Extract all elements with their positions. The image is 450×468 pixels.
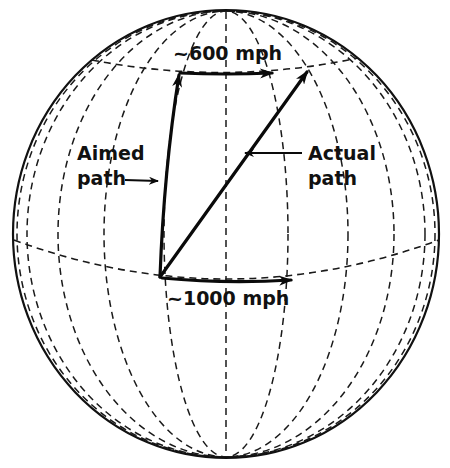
actual-label-line1: Actual (308, 142, 376, 164)
aimed-label-line2: path (77, 167, 126, 189)
aimed-pointer-arrow (125, 180, 158, 181)
aimed-label-line1: Aimed (77, 142, 145, 164)
bottom-speed-label: ~1000 mph (167, 287, 289, 309)
meridians (17, 11, 435, 457)
top-speed-label: ~600 mph (173, 42, 282, 64)
aimed-path-arrow (160, 75, 179, 277)
actual-label-line2: path (308, 167, 357, 189)
top-velocity-arrow (180, 73, 272, 74)
globe-diagram: ~600 mph ~1000 mph Aimed path Actual pat… (0, 0, 450, 468)
actual-path-arrow (160, 72, 307, 277)
